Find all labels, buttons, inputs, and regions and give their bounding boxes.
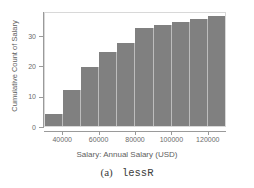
caption-name: lessR <box>122 167 154 179</box>
x-axis-tick-label: 60000 <box>89 136 108 143</box>
y-axis-tick-label: 10 <box>28 93 36 100</box>
x-axis-tick <box>171 131 172 135</box>
bar <box>99 52 117 126</box>
y-axis-tick <box>39 97 43 98</box>
bar <box>45 114 63 126</box>
y-axis-tick-label: 30 <box>28 33 36 40</box>
y-axis-tick-label: 0 <box>32 124 36 131</box>
bar <box>63 90 81 126</box>
bar <box>135 28 153 126</box>
x-axis-tick-label: 80000 <box>125 136 144 143</box>
y-axis-tick <box>39 66 43 67</box>
bar <box>117 43 135 126</box>
y-axis-tick <box>39 36 43 37</box>
figure-caption: (a) lessR <box>0 166 254 180</box>
x-axis-tick-label: 40000 <box>52 136 71 143</box>
x-axis-tick <box>135 131 136 135</box>
x-axis-tick-label: 100000 <box>160 136 183 143</box>
figure-panel: Cumulative Count of Salary 0102030 Salar… <box>0 0 254 188</box>
x-axis-title: Salary: Annual Salary (USD) <box>0 150 254 159</box>
y-tick-label-group: 0102030 <box>0 0 38 188</box>
plot-area <box>44 12 226 127</box>
y-axis-tick <box>39 127 43 128</box>
x-axis-tick <box>208 131 209 135</box>
x-axis-tick-label: 120000 <box>196 136 219 143</box>
x-axis-tick <box>99 131 100 135</box>
x-axis-tick <box>62 131 63 135</box>
bar <box>172 22 190 126</box>
bar-series <box>45 13 225 126</box>
caption-index: (a) <box>101 166 113 178</box>
y-axis-tick-label: 20 <box>28 63 36 70</box>
bar <box>81 67 99 126</box>
bar <box>190 19 208 126</box>
bar <box>154 25 172 126</box>
bar <box>208 16 225 126</box>
